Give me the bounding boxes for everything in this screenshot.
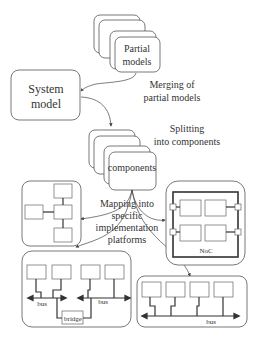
splitting-arrow <box>81 97 111 126</box>
noc-label: NoC <box>199 247 213 255</box>
partial-models-stack: Partial models <box>94 15 160 72</box>
design-flow-diagram: Partial models System model Merging of p… <box>0 0 256 338</box>
mapping-label-2: specific <box>111 210 143 221</box>
splitting-label-1: Splitting <box>170 123 204 134</box>
bridge-platform: bus bus bridge <box>22 251 131 327</box>
components-label: components <box>108 162 156 173</box>
merging-arrow <box>81 73 136 91</box>
mapping-label-3: implementation <box>96 222 159 233</box>
system-model-label-1: System <box>28 82 64 96</box>
hierarchical-platform <box>22 181 81 246</box>
mapping-label-4: platforms <box>108 234 146 245</box>
bus-label: bus <box>206 318 216 326</box>
components-stack: components <box>89 130 156 190</box>
bus-label-left: bus <box>37 300 47 308</box>
splitting-label-2: into components <box>154 136 220 147</box>
noc-platform: NoC <box>166 181 245 265</box>
bus-platform: bus <box>137 276 247 327</box>
partial-models-label-2: models <box>123 56 152 67</box>
system-model-box: System model <box>11 70 80 120</box>
bridge-label: bridge <box>64 315 82 323</box>
bus-label-right: bus <box>98 298 108 306</box>
merging-label-2: partial models <box>144 92 201 103</box>
merging-label-1: Merging of <box>149 79 195 90</box>
partial-models-label-1: Partial <box>124 43 150 54</box>
system-model-label-2: model <box>31 97 62 111</box>
mapping-label-1: Mapping into <box>100 198 154 209</box>
